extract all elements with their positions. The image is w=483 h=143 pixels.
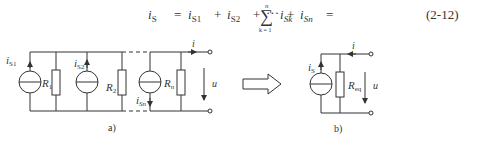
label-u-b: u — [373, 80, 378, 91]
circuits-layer: iS1 R1 iS2 R2 iSn Rn i u a) iS Req i u b… — [0, 0, 483, 143]
terminal-top-b — [369, 52, 373, 56]
terminal-top-a — [208, 50, 212, 54]
label-rn: Rn — [163, 77, 175, 91]
label-r2: R2 — [105, 81, 117, 95]
label-is: iS — [308, 61, 315, 75]
label-isn: iSn — [136, 94, 147, 108]
label-req: Req — [347, 79, 362, 93]
label-r1: R1 — [41, 77, 53, 91]
terminal-bottom-a — [208, 109, 212, 113]
resistor-r2 — [118, 52, 126, 111]
terminal-bottom-b — [369, 111, 373, 115]
label-is1: iS1 — [6, 54, 17, 68]
current-source-s — [310, 54, 332, 113]
caption-b: b) — [334, 123, 342, 135]
label-u-a: u — [212, 78, 217, 89]
resistor-req — [336, 54, 344, 113]
label-is2: iS2 — [74, 57, 85, 71]
resistor-r1 — [52, 52, 60, 111]
label-i-a: i — [192, 38, 195, 49]
caption-a: a) — [108, 122, 116, 134]
current-source-2 — [76, 52, 98, 111]
equivalent-arrow — [243, 74, 281, 94]
current-source-1 — [19, 52, 41, 111]
circuit-b — [310, 52, 373, 115]
resistor-rn — [177, 52, 185, 111]
label-i-b: i — [352, 40, 355, 51]
